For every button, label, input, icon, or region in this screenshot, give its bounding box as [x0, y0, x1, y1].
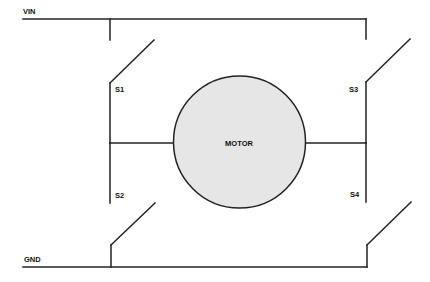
gnd-label: GND	[24, 255, 41, 264]
switch-s1-blade	[110, 40, 154, 83]
s3-label: S3	[349, 85, 358, 94]
motor-label: MOTOR	[225, 139, 253, 148]
vin-rail: VIN	[23, 7, 366, 40]
motor: MOTOR	[174, 76, 306, 208]
vin-label: VIN	[23, 7, 36, 16]
switch-s2: S2	[110, 143, 155, 245]
switch-s3-blade	[366, 39, 410, 82]
h-bridge-diagram: VIN GND S1 S2 S3 S4 MOTOR	[0, 0, 430, 282]
switch-s3: S3	[349, 39, 410, 143]
switch-s4: S4	[350, 143, 411, 245]
switch-s2-blade	[111, 203, 155, 245]
s1-label: S1	[115, 85, 124, 94]
switch-s1: S1	[110, 40, 154, 143]
s4-label: S4	[350, 190, 360, 199]
gnd-rail: GND	[23, 245, 367, 267]
s2-label: S2	[115, 191, 124, 200]
switch-s4-blade	[367, 202, 411, 245]
